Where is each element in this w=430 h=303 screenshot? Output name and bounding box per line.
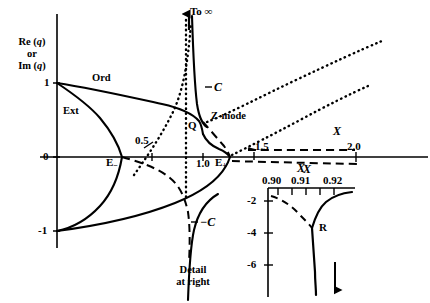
to-infinity-label: To ∞ bbox=[190, 6, 212, 17]
label-z-mode: Z-mode bbox=[211, 111, 246, 122]
x-tick-label-2p0: 2.0 bbox=[347, 141, 361, 152]
inset-x-ticks bbox=[278, 188, 334, 195]
x-tick-label-1p0: 1.0 bbox=[196, 158, 210, 169]
label-e-minus: E− bbox=[106, 157, 118, 170]
x-tick-label-1p5: 1.5 bbox=[255, 141, 269, 152]
label-ext: Ext bbox=[63, 106, 79, 117]
label-ord: Ord bbox=[92, 73, 111, 84]
inset-x-tick-0p90: 0.90 bbox=[262, 175, 281, 186]
curve-dotted-lower-left bbox=[134, 22, 191, 175]
inset-y-tick-label-minus6: -6 bbox=[247, 259, 256, 270]
inset-label-r: R bbox=[319, 222, 327, 233]
label-e-plus: E+ bbox=[215, 157, 227, 170]
inset-y-tick-label-minus2: -2 bbox=[247, 195, 256, 206]
y-tick-label-0: 0 bbox=[43, 151, 49, 162]
inset-curve-dashed bbox=[271, 196, 312, 228]
label-c-lower: −C bbox=[200, 216, 215, 228]
figure-container: Re (q) or Im (q) 1 0 -1 0.5 1.0 1.5 2.0 … bbox=[0, 0, 430, 303]
label-c-upper: C bbox=[214, 81, 222, 93]
dashed-curves bbox=[122, 122, 360, 262]
main-axes bbox=[40, 14, 428, 248]
detail-line1: Detail bbox=[180, 264, 207, 275]
curve-im-dashed-right bbox=[232, 161, 360, 164]
x-axis-label-upper: X bbox=[333, 125, 341, 137]
inset-curve-r-right bbox=[312, 192, 352, 228]
curve-c bbox=[192, 16, 207, 127]
inset-curve-r-down bbox=[312, 228, 316, 295]
label-detail-at-right: Detail at right bbox=[165, 264, 221, 288]
inset-x-tick-0p92: 0.92 bbox=[323, 175, 342, 186]
inset-x-tick-0p91: 0.91 bbox=[291, 175, 310, 186]
y-axis-label-line1: Re (q) bbox=[6, 36, 58, 48]
x-tick-label-0p5: 0.5 bbox=[135, 135, 149, 146]
y-tick-label-1: 1 bbox=[44, 77, 50, 88]
detail-line2: at right bbox=[176, 276, 210, 287]
y-axis-label-line2: or bbox=[6, 48, 58, 60]
y-tick-label-minus1: -1 bbox=[38, 225, 47, 236]
label-q-point: Q bbox=[188, 120, 197, 131]
inset-y-tick-label-minus4: -4 bbox=[247, 227, 256, 238]
dispersion-plot-svg bbox=[0, 0, 430, 303]
y-axis-label: Re (q) or Im (q) bbox=[6, 36, 58, 71]
inset-group bbox=[264, 188, 355, 297]
y-axis-label-line3: Im (q) bbox=[6, 60, 58, 72]
